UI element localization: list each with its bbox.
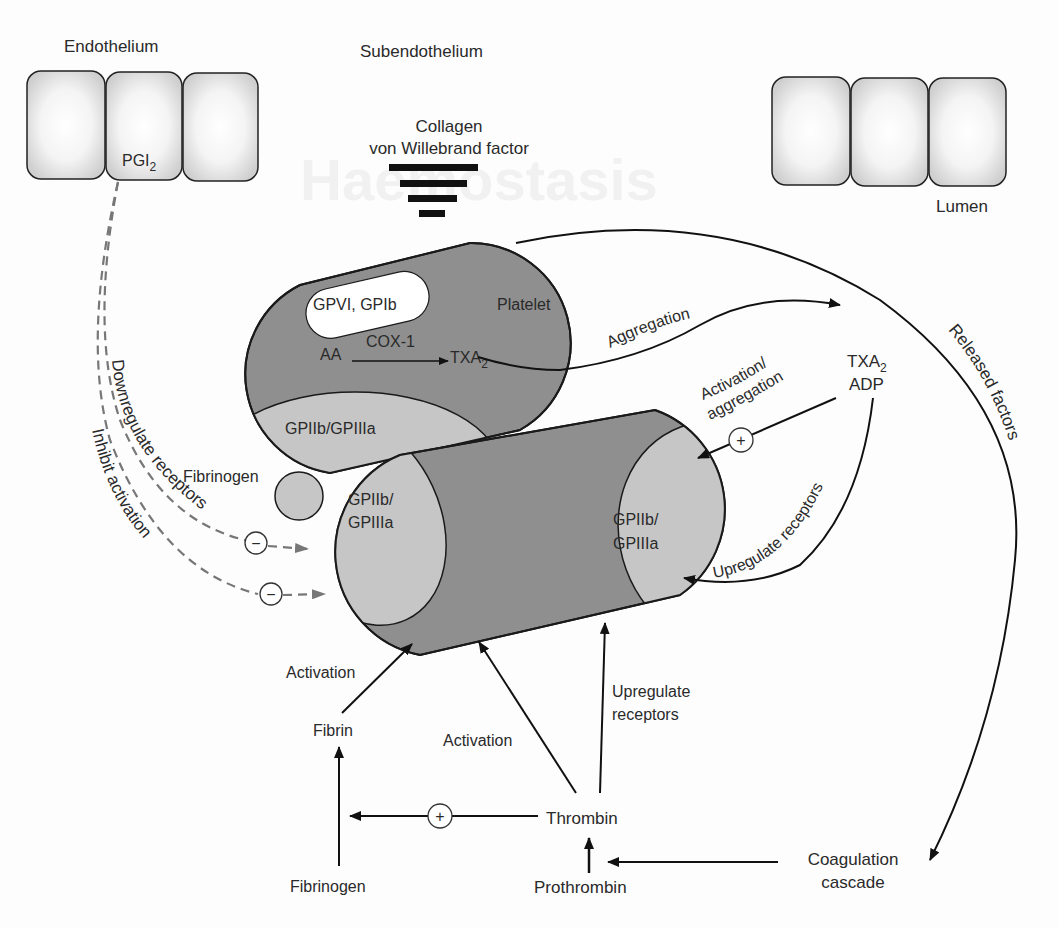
upregulate-receptors-right-label: Upregulate receptors [711, 480, 826, 581]
svg-text:+: + [736, 432, 745, 449]
plus-sign-activation: + [729, 428, 753, 452]
coagulation-line2: cascade [821, 873, 884, 892]
thrombin-label: Thrombin [546, 809, 618, 828]
haemostasis-diagram: Haemostasis Endothelium Subendothelium L… [0, 0, 1058, 928]
thrombin-upregulate-arrow [600, 623, 605, 793]
downregulate-arrowhead [268, 546, 308, 549]
gpiib-iiia-left-line2: GPIIIa [348, 514, 393, 531]
endothelial-cell [27, 71, 105, 179]
gpiib-iiia-right-line1: GPIIb/ [613, 511, 659, 528]
activation-fibrin-label: Activation [286, 664, 355, 681]
svg-text:+: + [435, 808, 444, 825]
adp-mediator-label: ADP [849, 375, 884, 394]
gpiib-iiia-right-line2: GPIIIa [613, 535, 658, 552]
upregulate-receptors-line2: receptors [612, 706, 679, 723]
lumen-label: Lumen [936, 197, 988, 216]
vwf-label: von Willebrand factor [369, 139, 529, 158]
endothelial-cell [183, 73, 258, 181]
txa2-mediator-label: TXA2 [847, 352, 887, 375]
svg-text:−: − [266, 586, 275, 603]
svg-text:−: − [251, 535, 260, 552]
released-factors-label: Released factors [945, 320, 1024, 442]
collagen-label: Collagen [415, 117, 482, 136]
endothelial-cell [851, 78, 928, 186]
coagulation-line1: Coagulation [808, 850, 899, 869]
platelet-label: Platelet [497, 296, 551, 313]
gpvi-gpib-label: GPVI, GPIb [313, 296, 397, 313]
activation-thrombin-label: Activation [443, 732, 512, 749]
fibrinogen-cascade-label: Fibrinogen [290, 878, 366, 895]
endothelium-label: Endothelium [64, 37, 159, 56]
aggregation-label: Aggregation [604, 304, 692, 350]
upregulate-receptors-line1: Upregulate [612, 683, 690, 700]
inhibit-arrowhead [283, 594, 325, 595]
minus-sign-downregulate: − [245, 532, 267, 554]
fibrin-label: Fibrin [313, 722, 353, 739]
diagram-canvas: Haemostasis Endothelium Subendothelium L… [0, 0, 1058, 928]
fibrinogen-bridge-label: Fibrinogen [183, 468, 259, 485]
thrombin-activation-arrow [479, 642, 576, 793]
cox1-label: COX-1 [366, 333, 415, 350]
gpiib-iiia-top-label: GPIIb/GPIIIa [285, 420, 376, 437]
fibrinogen-bridge-icon [275, 472, 323, 520]
endothelial-cell [929, 78, 1006, 186]
aa-label: AA [320, 346, 342, 363]
plus-sign-thrombin: + [428, 804, 452, 828]
gpiib-iiia-left-line1: GPIIb/ [348, 491, 394, 508]
endothelial-cell [772, 77, 850, 185]
subendothelium-label: Subendothelium [360, 42, 483, 61]
minus-sign-inhibit: − [260, 583, 282, 605]
endothelium-cells-right [772, 77, 1006, 186]
prothrombin-label: Prothrombin [534, 878, 627, 897]
